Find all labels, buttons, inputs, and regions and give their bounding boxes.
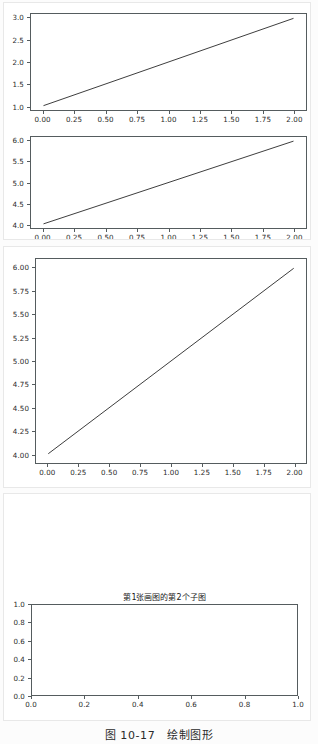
x-tick-label: 1.50: [223, 233, 239, 240]
x-tick-label: 1.0: [292, 700, 304, 709]
y-tick-label: 5.75: [4, 286, 29, 295]
x-tick-label: 0.00: [34, 233, 50, 240]
x-tickmark: [106, 111, 107, 114]
y-tickmark: [32, 338, 35, 339]
y-tick-label: 5.0: [4, 178, 24, 187]
y-tickmark: [27, 140, 30, 141]
x-tickmark: [233, 464, 234, 467]
x-tick-label: 1.25: [192, 115, 208, 124]
y-tick-label: 1.0: [4, 102, 24, 111]
y-tickmark: [28, 678, 31, 679]
y-tick-label: 4.50: [4, 403, 29, 412]
x-tick-label: 2.00: [287, 468, 303, 477]
y-tick-label: 1.0: [4, 600, 25, 609]
x-tick-label: 1.75: [255, 115, 271, 124]
x-tick-label: 0.4: [132, 700, 144, 709]
x-tick-label: 0.00: [39, 468, 55, 477]
x-tick-label: 0.2: [79, 700, 91, 709]
x-tickmark: [137, 111, 138, 114]
line-series-subplot-1-2: [31, 137, 306, 228]
x-tick-label: 0.8: [239, 700, 251, 709]
x-tickmark: [43, 111, 44, 114]
x-tick-label: 0.00: [34, 115, 50, 124]
y-tickmark: [32, 455, 35, 456]
axes-subplot-3-1: [31, 604, 298, 696]
y-tickmark: [32, 431, 35, 432]
series-line: [48, 268, 293, 453]
y-tick-label: 4.25: [4, 427, 29, 436]
x-tick-label: 1.00: [160, 115, 176, 124]
x-tick-label: 0.50: [97, 115, 113, 124]
x-tickmark: [74, 229, 75, 232]
x-tick-label: 1.00: [160, 233, 176, 240]
y-tickmark: [27, 84, 30, 85]
y-tick-label: 5.50: [4, 310, 29, 319]
x-tickmark: [106, 229, 107, 232]
x-tickmark: [140, 464, 141, 467]
y-tickmark: [32, 314, 35, 315]
y-tickmark: [27, 40, 30, 41]
x-tick-label: 0.25: [66, 233, 82, 240]
y-tickmark: [27, 62, 30, 63]
x-tick-label: 0.50: [101, 468, 117, 477]
x-tick-label: 1.75: [255, 233, 271, 240]
axes-subplot-1-1: [30, 13, 307, 111]
x-tickmark: [137, 229, 138, 232]
x-tick-label: 0.0: [25, 700, 37, 709]
x-tick-label: 0.75: [132, 468, 148, 477]
figure-panel-1: 0.000.250.500.751.001.251.501.752.001.01…: [3, 2, 311, 240]
y-tick-label: 5.5: [4, 157, 24, 166]
y-tickmark: [28, 641, 31, 642]
figure-caption: 图 10-17 绘制图形: [0, 726, 318, 742]
x-tickmark: [43, 229, 44, 232]
axes-subplot-1-2: [30, 136, 307, 229]
x-tickmark: [109, 464, 110, 467]
y-tickmark: [32, 267, 35, 268]
y-tick-label: 1.5: [4, 80, 24, 89]
x-tick-label: 1.25: [192, 233, 208, 240]
x-tick-label: 0.25: [70, 468, 86, 477]
y-tickmark: [27, 183, 30, 184]
x-tickmark: [200, 111, 201, 114]
x-tick-label: 1.25: [194, 468, 210, 477]
x-tickmark: [231, 111, 232, 114]
x-tick-label: 2.00: [286, 233, 302, 240]
x-tick-label: 1.50: [223, 115, 239, 124]
x-tickmark: [295, 464, 296, 467]
y-tickmark: [28, 604, 31, 605]
line-series-subplot-2-1: [36, 259, 306, 463]
x-tickmark: [74, 111, 75, 114]
x-tickmark: [263, 229, 264, 232]
y-tickmark: [27, 17, 30, 18]
x-tickmark: [171, 464, 172, 467]
x-tickmark: [298, 696, 299, 699]
y-tickmark: [27, 161, 30, 162]
y-tick-label: 4.0: [4, 220, 24, 229]
x-tickmark: [245, 696, 246, 699]
x-tick-label: 0.25: [66, 115, 82, 124]
y-tickmark: [32, 384, 35, 385]
x-tickmark: [47, 464, 48, 467]
y-tickmark: [27, 204, 30, 205]
y-tick-label: 5.25: [4, 333, 29, 342]
x-tickmark: [138, 696, 139, 699]
x-tickmark: [84, 696, 85, 699]
y-tickmark: [32, 361, 35, 362]
x-tick-label: 0.75: [129, 115, 145, 124]
x-tickmark: [264, 464, 265, 467]
y-tickmark: [28, 696, 31, 697]
x-tickmark: [231, 229, 232, 232]
x-tickmark: [200, 229, 201, 232]
line-series-subplot-1-1: [31, 14, 306, 110]
y-tick-label: 0.8: [4, 618, 25, 627]
y-tick-label: 0.4: [4, 655, 25, 664]
y-tick-label: 2.0: [4, 58, 24, 67]
x-tickmark: [263, 111, 264, 114]
line-series-subplot-3-1: [32, 605, 297, 695]
axes-title-subplot-3-1: 第1张画图的第2个子图: [123, 591, 205, 602]
y-tick-label: 4.00: [4, 450, 29, 459]
x-tickmark: [294, 111, 295, 114]
x-tick-label: 0.50: [97, 233, 113, 240]
y-tickmark: [32, 408, 35, 409]
x-tick-label: 1.75: [256, 468, 272, 477]
